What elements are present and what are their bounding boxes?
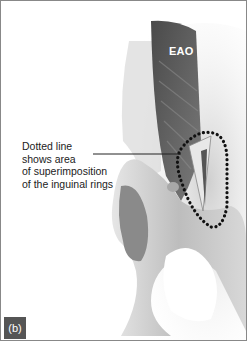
- annotation-line: of the inguinal rings: [22, 178, 172, 191]
- annotation-text: Dotted line shows area of superimpositio…: [22, 140, 172, 190]
- annotation-line: shows area: [22, 153, 172, 166]
- eao-label: EAO: [169, 45, 193, 57]
- annotation-line: of superimposition: [22, 165, 172, 178]
- panel-label: (b): [4, 317, 26, 339]
- annotation-line: Dotted line: [22, 140, 172, 153]
- figure-panel: EAO Dotted line shows area of superimpos…: [0, 0, 247, 341]
